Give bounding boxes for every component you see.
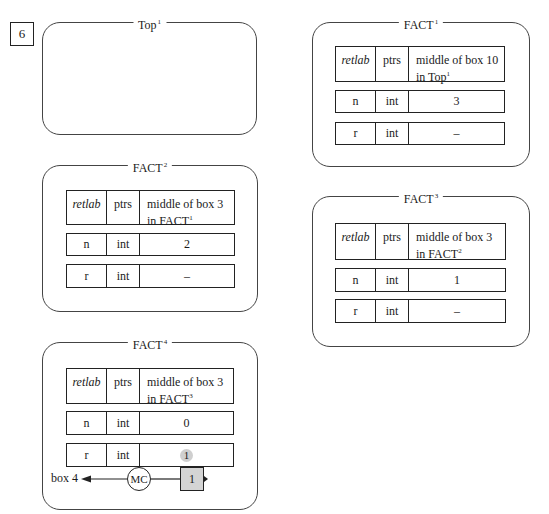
return-value-box: 1 (180, 467, 204, 491)
var-type: int (376, 300, 409, 322)
var-type: int (376, 269, 409, 291)
variable-row-r: r int – (335, 299, 506, 323)
var-name: n (336, 269, 376, 291)
var-value: – (140, 265, 234, 287)
frame-fact2: FACT2 retlab ptrs middle of box 3in FACT… (42, 165, 258, 312)
ptrs-label: ptrs (376, 47, 409, 81)
variable-row-n: n int 2 (66, 233, 235, 256)
mc-node: MC (127, 467, 151, 491)
frame-fact4: FACT4 retlab ptrs middle of box 3in FACT… (42, 342, 258, 510)
retlab-label: retlab (336, 224, 376, 259)
var-value: 2 (140, 234, 234, 255)
return-location: middle of box 3in FACT2 (409, 224, 505, 259)
arrow-left-icon (81, 476, 91, 483)
frame-title: FACT1 (399, 15, 443, 32)
var-name: n (67, 234, 107, 255)
return-target-label: box 4 (51, 471, 78, 486)
var-type: int (107, 265, 140, 287)
frame-title: Top1 (133, 15, 166, 32)
var-name: n (336, 91, 376, 112)
retlab-label: retlab (336, 47, 376, 81)
var-name: r (336, 123, 376, 144)
return-location: middle of box 10in Top1 (409, 47, 504, 81)
header-row: retlab ptrs middle of box 3in FACT2 (335, 223, 506, 260)
var-value: – (409, 300, 505, 322)
frame-top1: Top1 (42, 22, 257, 135)
frame-fact3: FACT3 retlab ptrs middle of box 3in FACT… (312, 196, 530, 347)
header-row: retlab ptrs middle of box 10in Top1 (335, 46, 505, 82)
step-number-box: 6 (10, 22, 34, 46)
variable-row-n: n int 3 (335, 90, 505, 113)
frame-fact1: FACT1 retlab ptrs middle of box 10in Top… (312, 22, 530, 167)
pointer-tab-icon (204, 476, 208, 482)
retlab-label: retlab (67, 191, 107, 224)
variable-row-r: r int – (335, 122, 505, 145)
return-location: middle of box 3in FACT1 (140, 191, 234, 224)
frame-title: FACT3 (399, 189, 443, 206)
var-name: r (67, 265, 107, 287)
variable-row-n: n int 1 (335, 268, 506, 292)
var-name: r (336, 300, 376, 322)
ptrs-label: ptrs (107, 191, 140, 224)
var-type: int (376, 91, 409, 112)
variable-row-r: r int – (66, 264, 235, 288)
ptrs-label: ptrs (376, 224, 409, 259)
var-type: int (107, 234, 140, 255)
header-row: retlab ptrs middle of box 3in FACT1 (66, 190, 235, 225)
var-value: – (409, 123, 504, 144)
var-type: int (376, 123, 409, 144)
var-value: 3 (409, 91, 504, 112)
frame-title: FACT2 (128, 158, 172, 175)
var-value: 1 (409, 269, 505, 291)
